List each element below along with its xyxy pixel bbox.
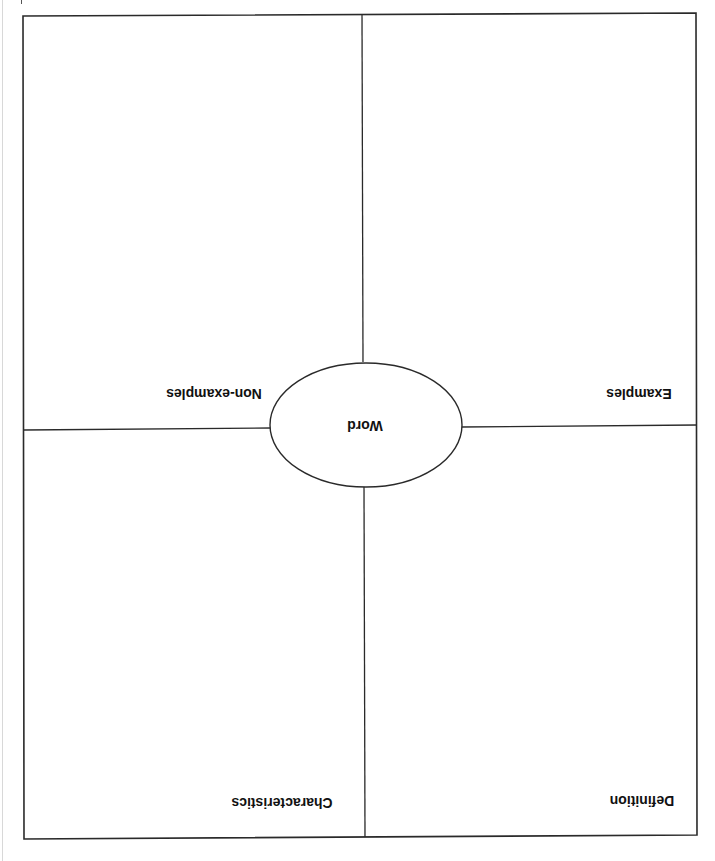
- center-word-label: Word: [347, 418, 383, 434]
- definition-label: Definition: [610, 793, 675, 809]
- horizontal-divider-left: [24, 428, 271, 430]
- horizontal-divider-right: [461, 425, 697, 427]
- frayer-model-diagram: Word Non-examples Examples Characteristi…: [0, 0, 715, 861]
- non-examples-label: Non-examples: [166, 386, 262, 402]
- characteristics-label: Characteristics: [231, 795, 332, 811]
- vertical-divider-top: [362, 15, 363, 362]
- examples-label: Examples: [606, 386, 672, 402]
- vertical-divider-bottom: [364, 487, 365, 837]
